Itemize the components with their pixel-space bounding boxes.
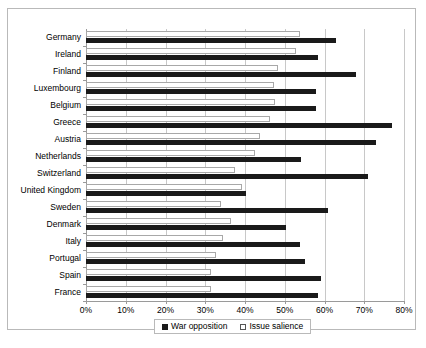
bar-row: Luxembourg	[8, 80, 415, 97]
chart-frame: GermanyIrelandFinlandLuxembourgBelgiumGr…	[7, 8, 416, 330]
category-label: Ireland	[8, 50, 81, 59]
bar-row: Switzerland	[8, 165, 415, 182]
bar-row: United Kingdom	[8, 182, 415, 199]
x-tick-mark	[166, 301, 167, 304]
category-label: Italy	[8, 237, 81, 246]
legend-label: Issue salience	[249, 322, 303, 331]
x-tick-label: 20%	[146, 305, 186, 315]
bar-row: France	[8, 284, 415, 301]
bar-issue-salience	[86, 31, 300, 37]
bar-war-opposition	[86, 174, 368, 179]
bar-row: Greece	[8, 114, 415, 131]
bar-row: Germany	[8, 29, 415, 46]
legend-label: War opposition	[171, 322, 227, 331]
category-label: Belgium	[8, 101, 81, 110]
x-tick-mark	[126, 301, 127, 304]
bar-war-opposition	[86, 293, 318, 298]
category-label: Netherlands	[8, 152, 81, 161]
x-tick-mark	[404, 301, 405, 304]
bar-war-opposition	[86, 191, 246, 196]
bar-issue-salience	[86, 99, 275, 105]
bar-war-opposition	[86, 208, 328, 213]
bar-war-opposition	[86, 38, 336, 43]
bar-issue-salience	[86, 252, 216, 258]
bar-row: Italy	[8, 233, 415, 250]
x-tick-mark	[325, 301, 326, 304]
x-tick-label: 0%	[66, 305, 106, 315]
bar-war-opposition	[86, 55, 318, 60]
x-tick-mark	[245, 301, 246, 304]
x-tick-label: 40%	[225, 305, 265, 315]
category-label: France	[8, 288, 81, 297]
legend-item-war-opposition: War opposition	[162, 322, 227, 331]
bar-row: Ireland	[8, 46, 415, 63]
x-tick-mark	[364, 301, 365, 304]
x-tick-label: 60%	[305, 305, 345, 315]
bar-issue-salience	[86, 150, 255, 156]
x-tick-label: 10%	[106, 305, 146, 315]
filled-square-icon	[162, 324, 168, 330]
category-label: Denmark	[8, 220, 81, 229]
bar-chart-figure: GermanyIrelandFinlandLuxembourgBelgiumGr…	[0, 0, 426, 348]
category-label: Luxembourg	[8, 84, 81, 93]
bar-war-opposition	[86, 123, 392, 128]
category-label: Austria	[8, 135, 81, 144]
outlined-square-icon	[240, 324, 246, 330]
bar-war-opposition	[86, 225, 286, 230]
bar-issue-salience	[86, 116, 270, 122]
x-tick-label: 30%	[185, 305, 225, 315]
legend-item-issue-salience: Issue salience	[240, 322, 303, 331]
bar-war-opposition	[86, 89, 316, 94]
bar-war-opposition	[86, 106, 316, 111]
category-label: Spain	[8, 271, 81, 280]
bar-row: Denmark	[8, 216, 415, 233]
bar-war-opposition	[86, 72, 356, 77]
bar-issue-salience	[86, 218, 231, 224]
category-label: Germany	[8, 33, 81, 42]
bar-issue-salience	[86, 184, 242, 190]
x-tick-mark	[285, 301, 286, 304]
x-tick-label: 50%	[265, 305, 305, 315]
x-tick-mark	[86, 301, 87, 304]
bar-row: Belgium	[8, 97, 415, 114]
bar-war-opposition	[86, 157, 301, 162]
chart-legend: War opposition Issue salience	[154, 319, 311, 334]
bar-issue-salience	[86, 133, 260, 139]
category-label: Switzerland	[8, 169, 81, 178]
bar-issue-salience	[86, 167, 235, 173]
category-label: Sweden	[8, 203, 81, 212]
x-tick-label: 70%	[344, 305, 384, 315]
bar-row: Austria	[8, 131, 415, 148]
x-tick-mark	[205, 301, 206, 304]
bar-war-opposition	[86, 140, 376, 145]
bar-row: Netherlands	[8, 148, 415, 165]
category-label: Portugal	[8, 254, 81, 263]
bar-issue-salience	[86, 235, 223, 241]
category-label: Greece	[8, 118, 81, 127]
bar-issue-salience	[86, 65, 278, 71]
bar-war-opposition	[86, 242, 300, 247]
x-tick-label: 80%	[384, 305, 424, 315]
bar-war-opposition	[86, 276, 321, 281]
bar-row: Portugal	[8, 250, 415, 267]
bar-issue-salience	[86, 48, 296, 54]
bar-issue-salience	[86, 82, 274, 88]
bar-issue-salience	[86, 269, 211, 275]
category-label: United Kingdom	[8, 186, 81, 195]
bar-war-opposition	[86, 259, 305, 264]
bar-row: Spain	[8, 267, 415, 284]
bar-row: Finland	[8, 63, 415, 80]
bar-row: Sweden	[8, 199, 415, 216]
bar-issue-salience	[86, 286, 211, 292]
category-label: Finland	[8, 67, 81, 76]
bar-issue-salience	[86, 201, 221, 207]
